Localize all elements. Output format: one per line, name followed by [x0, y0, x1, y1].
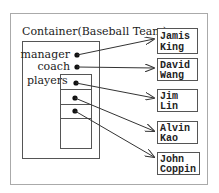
arrow-player [76, 83, 154, 98]
person-box: David Wang [158, 59, 198, 82]
svg-text:Lin: Lin [160, 101, 178, 112]
coach-label: coach [37, 60, 70, 73]
svg-text:King: King [160, 42, 184, 53]
arrow-coach [77, 67, 154, 68]
container-title: Container(Baseball Team) [22, 25, 167, 38]
person-box: Alvin Kao [158, 122, 198, 145]
svg-text:Coppin: Coppin [160, 164, 196, 175]
svg-text:Wang: Wang [160, 70, 184, 81]
svg-text:Kao: Kao [160, 133, 178, 144]
person-box: John Coppin [158, 153, 200, 176]
person-box: Jim Lin [158, 90, 198, 113]
svg-text:Jamis: Jamis [160, 31, 190, 42]
person-box: Jamis King [158, 29, 198, 54]
players-label: players [27, 74, 68, 87]
arrow-player [75, 98, 154, 131]
diagram: Container(Baseball Team) manager coach p… [0, 0, 219, 193]
arrow-player [75, 111, 154, 157]
